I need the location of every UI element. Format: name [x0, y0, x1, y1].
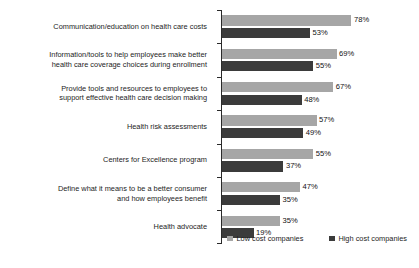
- bar-chart: Communication/education on health care c…: [0, 0, 419, 268]
- bar-row: 53%: [222, 28, 419, 38]
- category-label: Centers for Excellence program: [0, 155, 214, 165]
- legend-item-low-cost-companies: Low cost companies: [227, 234, 303, 243]
- bar-value-label: 37%: [283, 161, 301, 171]
- category-label: Information/tools to help employees make…: [0, 50, 214, 69]
- bar-low: [222, 216, 280, 226]
- bar-value-label: 48%: [302, 95, 320, 105]
- bar-value-label: 47%: [300, 182, 318, 192]
- bar-value-label: 67%: [333, 82, 351, 92]
- category-groups: Communication/education on health care c…: [0, 10, 419, 244]
- plot-area: Communication/education on health care c…: [0, 10, 419, 222]
- chart-legend: Low cost companies High cost companies: [0, 234, 419, 243]
- bar-high: [222, 195, 280, 205]
- bar-row: 49%: [222, 128, 419, 138]
- bar-group: 67%48%: [222, 77, 419, 110]
- bar-group: 57%49%: [222, 110, 419, 143]
- bar-value-label: 35%: [280, 195, 298, 205]
- bar-high: [222, 61, 313, 71]
- bar-row: 48%: [222, 95, 419, 105]
- category-group: Health risk assessments57%49%: [0, 110, 419, 143]
- legend-swatch-icon: [329, 236, 335, 242]
- bar-row: 78%: [222, 15, 419, 25]
- category-axis-spine: [214, 77, 222, 110]
- category-group: Define what it means to be a better cons…: [0, 177, 419, 210]
- category-axis-spine: [214, 110, 222, 143]
- bar-row: 55%: [222, 61, 419, 71]
- bar-high: [222, 28, 310, 38]
- category-group: Communication/education on health care c…: [0, 10, 419, 43]
- bar-row: 37%: [222, 161, 419, 171]
- category-label: Define what it means to be a better cons…: [0, 184, 214, 203]
- category-axis-spine: [214, 177, 222, 210]
- bar-low: [222, 82, 333, 92]
- category-axis-spine: [214, 10, 222, 43]
- bar-low: [222, 15, 351, 25]
- bar-value-label: 55%: [313, 149, 331, 159]
- bar-row: 69%: [222, 49, 419, 59]
- bar-low: [222, 149, 313, 159]
- bar-low: [222, 49, 337, 59]
- bar-row: 57%: [222, 115, 419, 125]
- bar-value-label: 57%: [317, 115, 335, 125]
- category-axis-spine: [214, 43, 222, 76]
- category-label: Communication/education on health care c…: [0, 22, 214, 32]
- bar-row: 67%: [222, 82, 419, 92]
- legend-swatch-icon: [227, 236, 233, 242]
- category-label: Health advocate: [0, 222, 214, 232]
- bar-value-label: 78%: [351, 15, 369, 25]
- bar-low: [222, 115, 317, 125]
- bar-value-label: 53%: [310, 28, 328, 38]
- bar-group: 78%53%: [222, 10, 419, 43]
- bar-high: [222, 161, 283, 171]
- legend-item-high-cost-companies: High cost companies: [329, 234, 407, 243]
- category-label: Health risk assessments: [0, 122, 214, 132]
- bar-group: 69%55%: [222, 43, 419, 76]
- bar-high: [222, 128, 303, 138]
- category-group: Centers for Excellence program55%37%: [0, 144, 419, 177]
- bar-value-label: 35%: [280, 216, 298, 226]
- bar-row: 35%: [222, 216, 419, 226]
- bar-high: [222, 95, 302, 105]
- bar-row: 35%: [222, 195, 419, 205]
- bar-row: 47%: [222, 182, 419, 192]
- bar-group: 55%37%: [222, 144, 419, 177]
- bar-value-label: 69%: [337, 49, 355, 59]
- category-group: Provide tools and resources to employees…: [0, 77, 419, 110]
- bar-value-label: 49%: [303, 128, 321, 138]
- legend-label: Low cost companies: [236, 234, 303, 243]
- category-label: Provide tools and resources to employees…: [0, 84, 214, 103]
- legend-label: High cost companies: [338, 234, 407, 243]
- bar-group: 47%35%: [222, 177, 419, 210]
- category-group: Information/tools to help employees make…: [0, 43, 419, 76]
- bar-value-label: 55%: [313, 61, 331, 71]
- bar-low: [222, 182, 300, 192]
- category-axis-spine: [214, 144, 222, 177]
- bar-row: 55%: [222, 149, 419, 159]
